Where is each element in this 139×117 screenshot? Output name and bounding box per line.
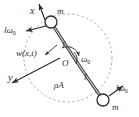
tip-speed-top-label: lω0 xyxy=(4,25,16,36)
tip-velocity-arrow-top xyxy=(26,26,46,31)
mass-top xyxy=(45,16,57,28)
hub-label: O xyxy=(62,58,69,68)
axis-y-label: y xyxy=(7,72,13,83)
axis-y-arrow xyxy=(12,58,60,83)
angular-velocity-subscript: 0 xyxy=(87,59,90,65)
tip-speed-top-main: lω xyxy=(4,25,13,35)
tip-speed-bottom-label: lω0 xyxy=(116,83,128,94)
beam-property-label: ρA xyxy=(53,80,64,90)
mass-bottom xyxy=(97,94,109,106)
axis-x-arrow xyxy=(39,4,45,20)
angular-velocity-label: ω0 xyxy=(81,54,90,65)
mass-top-label: m xyxy=(57,6,64,16)
axis-x-label: x xyxy=(29,5,35,16)
diagram-canvas: x y m m lω0 lω0 w(x,t) l l O ω0 ρA xyxy=(0,0,139,117)
mass-bottom-label: m xyxy=(112,102,119,112)
rotating-beam-diagram: x y m m lω0 lω0 w(x,t) l l O ω0 ρA xyxy=(0,0,139,117)
tip-speed-bottom-subscript: 0 xyxy=(125,88,128,94)
deflection-label: w(x,t) xyxy=(16,48,37,58)
tip-speed-bottom-main: lω xyxy=(116,83,125,93)
tip-speed-top-subscript: 0 xyxy=(13,30,16,36)
deflection-arrow xyxy=(45,45,57,55)
